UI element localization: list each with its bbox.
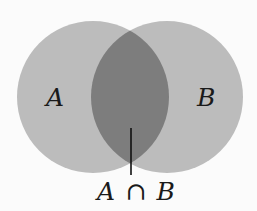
intersection-label-left: A bbox=[95, 177, 115, 206]
intersection-operator: ∩ bbox=[125, 177, 146, 206]
intersection-label: A ∩ B bbox=[95, 177, 175, 206]
set-b-label: B bbox=[196, 83, 215, 112]
set-a-label: A bbox=[44, 83, 64, 112]
intersection-label-right: B bbox=[156, 177, 175, 206]
venn-svg: A B A ∩ B bbox=[0, 0, 257, 211]
venn-diagram: A B A ∩ B bbox=[0, 0, 257, 211]
